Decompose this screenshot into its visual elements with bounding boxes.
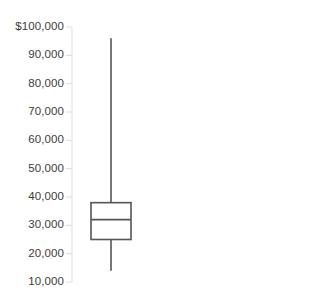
- y-tick-label: $100,000: [15, 21, 64, 33]
- y-tick-label: 50,000: [28, 163, 64, 175]
- box-plot-chart: $100,000 90,000 80,000 70,000 60,000 50,…: [0, 0, 315, 307]
- box-plot-series-1: [91, 38, 131, 270]
- y-tick-label: 20,000: [28, 248, 64, 260]
- y-tick-label: 70,000: [28, 106, 64, 118]
- y-tick-label: 10,000: [28, 276, 64, 288]
- y-tick-label: 90,000: [28, 49, 64, 61]
- interquartile-box: [91, 203, 131, 240]
- y-tick-label: 60,000: [28, 134, 64, 146]
- plot-area: [0, 0, 315, 307]
- y-axis-tick-marks: [66, 27, 72, 282]
- y-tick-label: 40,000: [28, 191, 64, 203]
- y-tick-label: 80,000: [28, 78, 64, 90]
- y-tick-label: 30,000: [28, 219, 64, 231]
